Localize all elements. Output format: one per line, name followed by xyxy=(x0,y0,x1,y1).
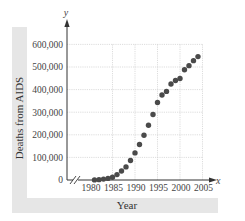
x-tick-label: 1980 xyxy=(82,183,101,193)
data-point xyxy=(195,54,200,59)
data-point xyxy=(119,168,124,173)
y-axis-arrow-icon xyxy=(64,19,69,27)
x-tick-label: 2005 xyxy=(194,183,213,193)
data-point xyxy=(132,150,137,155)
y-tick-label: 600,000 xyxy=(32,40,63,50)
data-point xyxy=(146,123,151,128)
gridlines xyxy=(67,44,203,180)
data-point xyxy=(191,58,196,63)
y-tick-label: 200,000 xyxy=(32,130,63,140)
data-points xyxy=(92,54,201,183)
x-tick-label: 2000 xyxy=(172,183,191,193)
data-point xyxy=(105,176,110,181)
y-axis-variable: y xyxy=(63,7,69,18)
y-tick-label: 0 xyxy=(58,175,63,185)
axes xyxy=(64,19,217,184)
y-tick-label: 400,000 xyxy=(32,85,63,95)
y-tick-labels: 0100,000200,000300,000400,000500,000600,… xyxy=(32,40,63,186)
x-tick-label: 1985 xyxy=(104,183,123,193)
data-point xyxy=(110,175,115,180)
data-point xyxy=(182,67,187,72)
y-tick-label: 100,000 xyxy=(32,153,63,163)
x-tick-labels: 198019851990199520002005 xyxy=(82,183,214,193)
xlabel-band xyxy=(12,198,218,213)
data-point xyxy=(128,158,133,163)
data-point xyxy=(177,76,182,81)
data-point xyxy=(164,89,169,94)
data-point xyxy=(150,112,155,117)
data-point xyxy=(141,133,146,138)
data-point xyxy=(137,142,142,147)
data-point xyxy=(155,100,160,105)
y-tick-label: 500,000 xyxy=(32,62,63,72)
scatter-chart: 0100,000200,000300,000400,000500,000600,… xyxy=(0,0,245,221)
data-point xyxy=(159,92,164,97)
x-axis-variable: x xyxy=(215,175,221,186)
y-tick-label: 300,000 xyxy=(32,108,63,118)
y-axis-title: Deaths from AIDS xyxy=(13,77,25,160)
data-point xyxy=(168,81,173,86)
x-tick-label: 1995 xyxy=(149,183,168,193)
x-tick-label: 1990 xyxy=(127,183,146,193)
data-point xyxy=(186,63,191,68)
data-point xyxy=(123,164,128,169)
data-point xyxy=(114,172,119,177)
x-axis-title: Year xyxy=(117,199,138,211)
